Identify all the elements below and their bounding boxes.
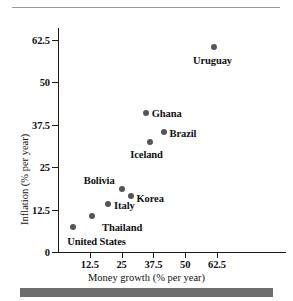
scatter-point (147, 139, 153, 145)
scatter-point (143, 110, 149, 116)
top-rule-divider (12, 7, 280, 8)
y-tick-mark (52, 210, 58, 211)
scatter-point (119, 186, 125, 192)
y-tick-label: 62.5 (8, 35, 50, 46)
y-tick-label: 0 (8, 247, 50, 258)
y-axis-line (58, 28, 59, 253)
scatter-point-label: Thailand (102, 222, 142, 233)
y-tick-label: 50 (8, 77, 50, 88)
y-tick-mark (52, 40, 58, 41)
x-tick-mark (185, 253, 186, 258)
scatter-point-label: Ghana (152, 107, 182, 118)
x-tick-mark (90, 253, 91, 258)
x-tick-label: 62.5 (208, 259, 226, 270)
scatter-point (211, 44, 217, 50)
x-tick-mark (217, 253, 218, 258)
scatter-point-label: Iceland (130, 148, 163, 159)
bottom-gray-bar (20, 288, 273, 297)
x-tick-label: 12.5 (81, 259, 99, 270)
y-tick-mark (52, 167, 58, 168)
scatter-point-label: Italy (114, 199, 135, 210)
x-tick-label: 25 (116, 259, 126, 270)
x-axis-line (58, 252, 286, 253)
x-tick-label: 50 (180, 259, 190, 270)
scatter-point (161, 129, 167, 135)
x-axis-title: Money growth (% per year) (0, 272, 293, 283)
chart-figure: 012.52537.55062.5 12.52537.55062.5 Unite… (0, 0, 293, 301)
scatter-point-label: United States (67, 235, 126, 246)
scatter-point-label: Uruguay (193, 54, 232, 65)
scatter-point (89, 213, 95, 219)
x-tick-mark (122, 253, 123, 258)
scatter-point-label: Korea (137, 193, 164, 204)
y-axis-title: Inflation (% per year) (19, 134, 30, 225)
x-tick-label: 37.5 (144, 259, 162, 270)
y-tick-mark (52, 125, 58, 126)
scatter-point (105, 201, 111, 207)
y-tick-label: 37.5 (8, 119, 50, 130)
y-tick-mark (52, 82, 58, 83)
scatter-point (70, 224, 76, 230)
scatter-point (128, 193, 134, 199)
y-tick-mark (52, 252, 58, 253)
scatter-point-label: Brazil (170, 127, 197, 138)
scatter-point-label: Bolivia (84, 175, 115, 186)
x-tick-mark (153, 253, 154, 258)
